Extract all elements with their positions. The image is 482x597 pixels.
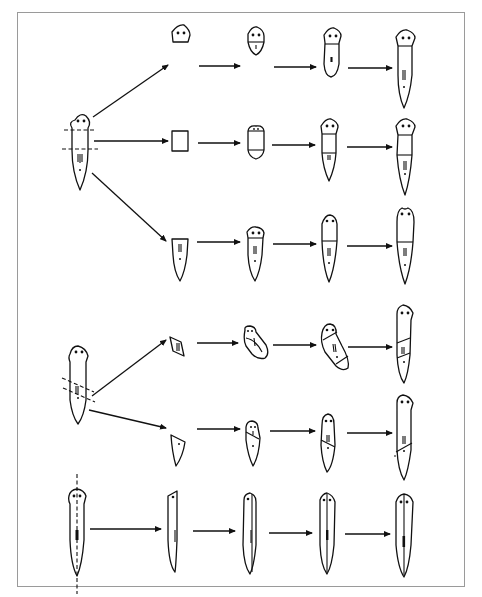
row2-stage3 [321, 119, 338, 181]
row4-stage3 [321, 324, 348, 370]
row3-stage3 [322, 215, 337, 282]
regeneration-diagram [0, 0, 482, 597]
row5-stage3 [321, 414, 335, 472]
row1-stage4-complete [396, 30, 415, 108]
row5-stage2 [246, 421, 260, 466]
source-worm-transverse [62, 115, 98, 190]
row5-stage1-oblique-tail [171, 435, 185, 466]
row3-stage2 [247, 227, 264, 281]
source-worm-longitudinal [69, 474, 86, 594]
row1-stage1-head-fragment [172, 25, 190, 42]
source-worm-oblique [62, 346, 95, 424]
row2-stage2 [248, 126, 264, 159]
row4-stage4-complete [397, 305, 413, 383]
row3-stage1-tail-fragment [172, 239, 188, 281]
row6-stage1-half [168, 491, 177, 572]
row4-stage2 [244, 326, 268, 359]
row6-stage2 [243, 493, 256, 574]
row5-stage4-complete [394, 395, 413, 480]
row1-stage3 [324, 28, 341, 77]
row3-stage4-complete [397, 208, 414, 284]
arrow-to-tail-fragment [92, 173, 166, 241]
arrow-to-oblique-tail [89, 410, 166, 428]
row2-stage4-complete [396, 119, 415, 195]
row1-stage2 [248, 27, 264, 55]
arrow-to-head-fragment [93, 65, 168, 117]
row6-stage3 [320, 493, 335, 574]
row4-stage1-oblique-middle [170, 337, 184, 356]
row2-stage1-middle-fragment [172, 131, 188, 151]
arrow-to-oblique-middle [92, 340, 166, 396]
row6-stage4-complete [396, 494, 413, 577]
